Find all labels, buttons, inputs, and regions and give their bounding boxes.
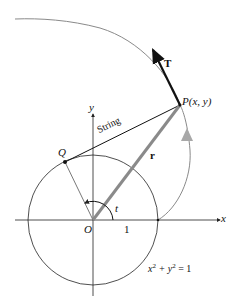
label-point-p-text: P(x, y) <box>182 95 211 107</box>
radius-oq <box>65 162 93 220</box>
label-point-q: Q <box>58 147 66 158</box>
label-vector-r: r <box>150 150 155 161</box>
label-origin: O <box>84 224 92 235</box>
label-point-p: P(x, y) <box>182 96 211 107</box>
label-tangent-t: T <box>164 58 171 69</box>
label-unit-tick: 1 <box>124 224 130 235</box>
motion-arrowhead-icon <box>181 128 193 141</box>
label-x-axis: x <box>221 213 226 224</box>
label-y-axis: y <box>89 102 94 113</box>
label-angle-t: t <box>115 203 118 214</box>
point-1-0 <box>157 219 160 222</box>
diagram-canvas <box>0 0 229 307</box>
point-q <box>63 160 67 164</box>
circle-equation: x2 + y2 = 1 <box>148 263 191 274</box>
involute-curve <box>15 19 190 220</box>
string-line <box>65 105 180 162</box>
